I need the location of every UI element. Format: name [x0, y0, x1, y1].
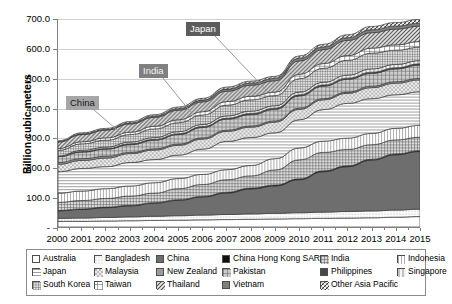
- legend-label: India: [331, 254, 349, 263]
- plot-clip: [58, 19, 420, 227]
- x-tick-mark: [118, 228, 119, 230]
- legend-swatch-icon: [94, 268, 102, 276]
- legend-label: Vietnam: [233, 280, 264, 289]
- legend-label: Australia: [43, 254, 76, 263]
- x-tick-mark: [360, 228, 361, 230]
- legend-item-china-hong-kong-sar[interactable]: China Hong Kong SAR: [222, 254, 320, 263]
- legend-item-china[interactable]: China: [156, 254, 189, 263]
- legend-label: South Korea: [43, 280, 90, 289]
- y-tick-label: -: [0, 222, 50, 233]
- legend-row: AustraliaBangladeshChinaChina Hong Kong …: [32, 253, 421, 266]
- x-tick-mark: [372, 228, 373, 231]
- x-tick-mark: [384, 228, 385, 230]
- legend-swatch-icon: [320, 268, 328, 276]
- legend-row: South KoreaTaiwanThailandVietnamOther As…: [32, 279, 421, 292]
- legend-item-vietnam[interactable]: Vietnam: [222, 280, 264, 289]
- legend-label: New Zealand: [167, 267, 217, 276]
- x-tick-mark: [299, 228, 300, 231]
- legend-item-taiwan[interactable]: Taiwan: [94, 280, 131, 289]
- legend-swatch-icon: [94, 255, 102, 263]
- x-tick-mark: [202, 228, 203, 231]
- x-tick-mark: [130, 228, 131, 231]
- x-tick-mark: [105, 228, 106, 231]
- legend-label: Other Asia Pacific: [331, 280, 398, 289]
- legend-label: Indonesia: [408, 254, 445, 263]
- x-tick-mark: [214, 228, 215, 230]
- x-tick-mark: [408, 228, 409, 230]
- legend-label: Taiwan: [105, 280, 131, 289]
- y-tick-label: 300.0: [0, 132, 50, 143]
- legend-item-philippines[interactable]: Philippines: [320, 267, 372, 276]
- legend: AustraliaBangladeshChinaChina Hong Kong …: [26, 249, 426, 296]
- legend-label: Bangladesh: [105, 254, 150, 263]
- x-tick-mark: [263, 228, 264, 230]
- x-tick-mark: [287, 228, 288, 230]
- legend-swatch-icon: [156, 268, 164, 276]
- callout-india: India: [139, 64, 168, 78]
- legend-swatch-icon: [32, 281, 40, 289]
- x-tick-mark: [396, 228, 397, 231]
- legend-swatch-icon: [397, 268, 405, 276]
- legend-swatch-icon: [320, 281, 328, 289]
- x-tick-mark: [142, 228, 143, 230]
- y-tick-label: 600.0: [0, 43, 50, 54]
- x-tick-mark: [347, 228, 348, 231]
- callout-china: China: [66, 96, 99, 110]
- y-tick-label: 700.0: [0, 13, 50, 24]
- legend-label: China: [167, 254, 189, 263]
- x-tick-mark: [275, 228, 276, 231]
- legend-label: Japan: [43, 267, 66, 276]
- y-tick-label: 500.0: [0, 73, 50, 84]
- legend-item-malaysia[interactable]: Malaysia: [94, 267, 139, 276]
- legend-label: China Hong Kong SAR: [233, 254, 320, 263]
- plot-area: [57, 19, 420, 228]
- x-tick-mark: [57, 228, 58, 231]
- x-tick-mark: [251, 228, 252, 231]
- legend-swatch-icon: [320, 255, 328, 263]
- legend-label: Philippines: [331, 267, 372, 276]
- legend-label: Thailand: [167, 280, 200, 289]
- y-tick-label: 100.0: [0, 192, 50, 203]
- x-tick-mark: [69, 228, 70, 230]
- x-tick-mark: [323, 228, 324, 231]
- y-tick-label: 400.0: [0, 103, 50, 114]
- legend-swatch-icon: [156, 255, 164, 263]
- legend-item-india[interactable]: India: [320, 254, 349, 263]
- legend-label: Singapore: [408, 267, 447, 276]
- stacked-area-series: [58, 19, 420, 227]
- legend-item-singapore[interactable]: Singapore: [397, 267, 447, 276]
- legend-swatch-icon: [32, 268, 40, 276]
- legend-swatch-icon: [397, 255, 405, 263]
- legend-item-other-asia-pacific[interactable]: Other Asia Pacific: [320, 280, 398, 289]
- legend-item-pakistan[interactable]: Pakistan: [222, 267, 266, 276]
- legend-item-japan[interactable]: Japan: [32, 267, 66, 276]
- legend-swatch-icon: [222, 268, 230, 276]
- legend-item-indonesia[interactable]: Indonesia: [397, 254, 445, 263]
- legend-item-new-zealand[interactable]: New Zealand: [156, 267, 217, 276]
- x-tick-mark: [239, 228, 240, 230]
- legend-item-south-korea[interactable]: South Korea: [32, 280, 90, 289]
- x-tick-mark: [166, 228, 167, 230]
- legend-swatch-icon: [156, 281, 164, 289]
- x-tick-mark: [190, 228, 191, 230]
- x-tick-mark: [81, 228, 82, 231]
- x-tick-mark: [178, 228, 179, 231]
- legend-swatch-icon: [222, 255, 230, 263]
- legend-item-thailand[interactable]: Thailand: [156, 280, 200, 289]
- x-tick-mark: [311, 228, 312, 230]
- legend-item-bangladesh[interactable]: Bangladesh: [94, 254, 150, 263]
- legend-swatch-icon: [32, 255, 40, 263]
- legend-label: Pakistan: [233, 267, 266, 276]
- legend-swatch-icon: [222, 281, 230, 289]
- legend-row: JapanMalaysiaNew ZealandPakistanPhilippi…: [32, 266, 421, 279]
- x-tick-mark: [420, 228, 421, 231]
- legend-item-australia[interactable]: Australia: [32, 254, 76, 263]
- callout-japan: Japan: [186, 22, 220, 36]
- x-tick-mark: [154, 228, 155, 231]
- legend-label: Malaysia: [105, 267, 139, 276]
- x-tick-label: 2015: [403, 233, 437, 244]
- x-tick-mark: [335, 228, 336, 230]
- chart-root: Billion cubic meters 700.0600.0500.0400.…: [0, 0, 452, 304]
- legend-swatch-icon: [94, 281, 102, 289]
- y-tick-label: 200.0: [0, 162, 50, 173]
